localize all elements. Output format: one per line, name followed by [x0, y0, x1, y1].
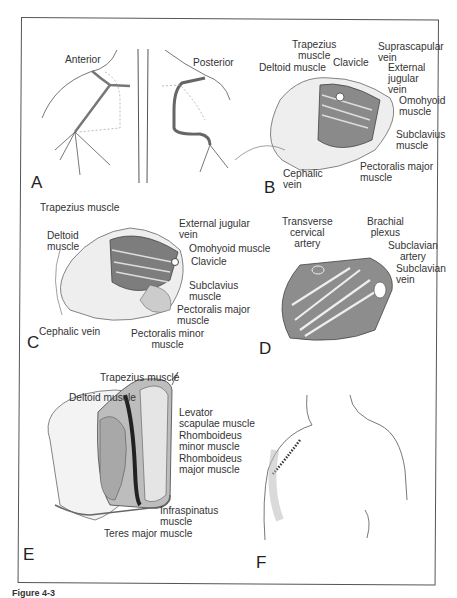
- panel-e-rhomb-major-label: Rhomboideus major muscle: [179, 453, 242, 475]
- panel-a-posterior-label: Posterior: [193, 57, 234, 68]
- panel-c-letter: C: [27, 333, 39, 353]
- panel-b-cephalic-label: Cephalic vein: [283, 168, 323, 190]
- panel-a-letter: A: [31, 173, 42, 193]
- panel-b-omohyoid-label: Omohyoid muscle: [399, 95, 445, 117]
- panel-f-letter: F: [256, 553, 266, 573]
- panel-b-trapezius-label: Trapezius muscle: [292, 39, 336, 61]
- panel-c-ext-jugular-label: External jugular vein: [179, 218, 250, 240]
- panel-a-divider: [138, 49, 148, 183]
- panel-e-teres-major-label: Teres major muscle: [104, 528, 192, 539]
- panel-a-anterior-drawing: [42, 50, 130, 175]
- panel-c-cephalic-label: Cephalic vein: [39, 326, 100, 337]
- panel-c-omohyoid-label: Omohyoid muscle: [189, 243, 271, 254]
- panel-b-ext-jugular-label: External jugular vein: [388, 62, 425, 95]
- panel-b-letter: B: [264, 178, 275, 198]
- panel-d-letter: D: [259, 339, 271, 359]
- panel-d-drawing: [282, 258, 392, 340]
- panel-c-pect-major-label: Pectoralis major muscle: [177, 304, 250, 326]
- panel-c-trapezius-label: Trapezius muscle: [40, 202, 119, 213]
- panel-e-levator-label: Levator scapulae muscle: [179, 407, 255, 429]
- panel-c-subclavius-label: Subclavius muscle: [189, 280, 238, 302]
- figure-caption-fragment: Figure 4-3: [12, 588, 55, 598]
- panel-d-subclavian-vein-label: Subclavian vein: [396, 263, 446, 285]
- panel-b-subclavius-label: Subclavius muscle: [396, 129, 445, 151]
- panel-c-pect-minor-label: Pectoralis minor muscle: [131, 328, 204, 350]
- panel-d-brachial-plexus-label: Brachial plexus: [367, 216, 404, 238]
- panel-e-infraspinatus-label: Infraspinatus muscle: [160, 505, 218, 527]
- panel-f-drawing: [264, 395, 407, 540]
- panel-e-deltoid-label: Deltoid muscle: [69, 392, 136, 403]
- panel-b-suprascapular-label: Suprascapular vein: [378, 41, 444, 63]
- panel-b-clavicle-label: Clavicle: [333, 57, 369, 68]
- panel-b-deltoid-label: Deltoid muscle: [259, 62, 326, 73]
- panel-a-anterior-label: Anterior: [65, 54, 101, 65]
- panel-a-posterior-drawing: [162, 50, 230, 172]
- panel-e-letter: E: [23, 545, 34, 565]
- panel-e-trapezius-label: Trapezius muscle: [100, 372, 179, 383]
- panel-b-pect-major-label: Pectoralis major muscle: [360, 161, 433, 183]
- panel-c-clavicle-label: Clavicle: [191, 256, 227, 267]
- panel-d-transverse-cervical-label: Transverse cervical artery: [282, 216, 333, 249]
- panel-d-subclavian-artery-label: Subclavian artery: [388, 240, 438, 262]
- panel-b-drawing: [235, 78, 394, 170]
- panel-e-rhomb-minor-label: Rhomboideus minor muscle: [179, 430, 242, 452]
- panel-c-deltoid-label: Deltoid muscle: [47, 230, 79, 252]
